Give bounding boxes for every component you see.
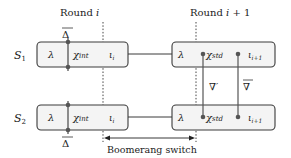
delta-top-annotation: Δ xyxy=(62,28,73,40)
svg-text:Δ: Δ xyxy=(62,29,69,40)
nabla-bar-label: ∇ xyxy=(243,80,253,92)
round-i-label: Round i xyxy=(60,7,99,18)
s2-round-i-plus-1-block: λ χstd ιi+1 xyxy=(172,105,275,130)
s1-round-i-plus-1-block: λ χstd ιi+1 xyxy=(172,42,275,67)
nabla-prime-label: ∇′ xyxy=(209,81,219,92)
s2-round-i-block: λ χint ιi xyxy=(37,101,128,134)
svg-text:λ: λ xyxy=(47,49,54,60)
svg-text:λ: λ xyxy=(177,112,184,123)
boomerang-diagram: Round i Round i + 1 S1 S2 λ χint ιi λ χi… xyxy=(0,0,291,158)
round-i-plus-1-label: Round i + 1 xyxy=(190,7,250,18)
s1-round-i-block: λ χint ιi xyxy=(37,38,128,71)
delta-bottom-annotation: Δ xyxy=(62,137,73,149)
svg-text:λ: λ xyxy=(47,112,54,123)
svg-text:∇: ∇ xyxy=(243,81,250,92)
boomerang-switch-arrow xyxy=(104,136,195,141)
row-label-s2: S2 xyxy=(14,112,26,126)
row-label-s1: S1 xyxy=(14,49,26,63)
svg-text:Δ: Δ xyxy=(62,138,69,149)
boomerang-switch-label: Boomerang switch xyxy=(107,144,197,155)
svg-text:λ: λ xyxy=(177,49,184,60)
